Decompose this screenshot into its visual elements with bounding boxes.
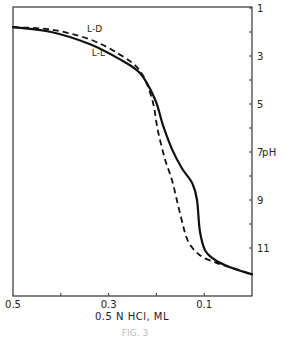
x-tick-label: 0.3 <box>101 299 117 310</box>
y-axis-title: pH <box>262 147 277 158</box>
y-tick-label: 5 <box>257 99 263 110</box>
plot-frame <box>13 7 252 296</box>
y-tick-label: 11 <box>257 243 270 254</box>
x-axis-title: 0.5 N HCl, ML <box>95 311 169 322</box>
x-tick-label: 0.1 <box>196 299 212 310</box>
figure-caption: FIG. 3 <box>122 328 148 338</box>
y-tick-label: 9 <box>257 195 263 206</box>
series-l-l-curve <box>13 27 252 274</box>
series-l-d-curve <box>13 27 252 274</box>
x-tick-label: 0.5 <box>5 299 21 310</box>
label-l-d: L-D <box>87 24 102 34</box>
label-l-l: L-L <box>92 48 105 58</box>
y-tick-label: 1 <box>257 3 263 14</box>
titration-chart: 0.50.30.1 1357911 L-D L-L pH 0.5 N HCl, … <box>0 0 290 338</box>
y-tick-label: 3 <box>257 51 263 62</box>
